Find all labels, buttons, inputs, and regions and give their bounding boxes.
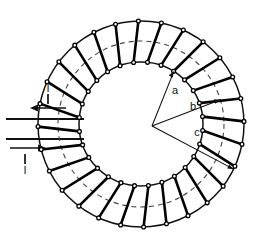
winding-segment [134,21,139,62]
outer-circle [38,21,244,227]
winding-node-outer [221,184,225,188]
winding-node-outer [186,214,190,218]
winding-node-inner [119,181,123,185]
winding-node-inner [86,90,90,94]
winding-node-inner [160,180,164,184]
winding-segment [162,182,167,223]
winding-node-outer [218,56,222,60]
winding-node-inner [133,184,137,188]
winding-segment [75,45,97,80]
winding-node-inner [87,155,91,159]
winding-node-outer [60,188,64,192]
winding-segment [40,104,79,118]
winding-node-inner [118,64,122,68]
winding-node-outer [57,60,61,64]
winding-node-inner [146,60,150,64]
winding-node-outer [165,222,169,226]
radius-label-a: a [172,84,179,96]
winding-node-inner [132,61,136,65]
winding-node-inner [198,142,202,146]
radius-label-b: b [190,100,196,112]
bottom-current-label: I [23,164,26,176]
winding-node-inner [106,70,110,74]
winding-segment [62,168,97,190]
winding-node-outer [205,201,209,205]
top-current-label: I [46,82,49,94]
winding-segment [144,186,149,227]
winding-node-outer [97,216,101,220]
winding-segment [174,42,204,71]
winding-node-outer [36,125,40,129]
winding-node-outer [114,22,118,26]
radius-line-a [152,71,174,126]
toroid-figure: a b c I I [0,0,279,242]
winding-node-inner [95,79,99,83]
winding-node-inner [159,63,163,67]
winding-node-inner [78,130,82,134]
winding-node-outer [242,119,246,123]
coil-windings [36,19,246,229]
winding-segment [59,62,88,92]
winding-node-inner [147,184,151,188]
winding-node-outer [181,28,185,32]
mean-dashed-circle [58,41,224,207]
winding-segment [161,30,183,65]
winding-node-outer [38,102,42,106]
winding-node-outer [233,164,237,168]
winding-segment [185,168,207,203]
radius-label-c: c [194,126,200,138]
winding-segment [79,177,109,206]
winding-node-outer [73,43,77,47]
torus-body [38,21,244,227]
winding-segment [99,183,121,218]
winding-segment [49,157,88,171]
winding-segment [174,176,188,215]
winding-node-inner [80,102,84,106]
winding-node-outer [119,223,123,227]
winding-node-inner [96,166,100,170]
winding-node-outer [231,75,235,79]
winding-node-inner [197,101,201,105]
winding-node-inner [201,129,205,133]
winding-node-inner [107,175,111,179]
winding-segment [47,82,82,104]
winding-segment [185,58,220,80]
winding-node-inner [201,115,205,119]
winding-node-inner [172,174,176,178]
winding-node-outer [142,225,146,229]
winding-node-outer [240,142,244,146]
toroid-diagram-svg: a b c I I [0,0,279,242]
winding-node-inner [77,116,81,120]
winding-node-inner [81,143,85,147]
winding-node-outer [239,97,243,101]
winding-node-inner [192,155,196,159]
winding-segment [193,77,232,91]
winding-segment [200,144,235,166]
winding-node-outer [159,21,163,25]
radius-line-c [152,126,234,169]
winding-node-outer [201,40,205,44]
winding-node-outer [92,30,96,34]
winding-segment [116,24,121,65]
winding-node-inner [183,166,187,170]
winding-node-outer [136,19,140,23]
winding-node-inner [191,89,195,93]
radius-arrowhead-a [169,71,174,77]
winding-segment [94,32,108,71]
winding-node-outer [47,169,51,173]
radius-line-b [152,100,220,126]
winding-node-outer [77,204,81,208]
winding-node-inner [183,78,187,82]
winding-node-outer [39,148,43,152]
